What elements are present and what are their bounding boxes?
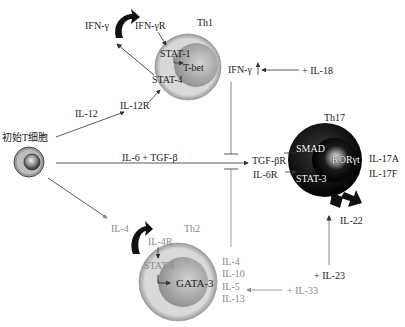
arrow-stat4-ifng xyxy=(117,44,154,75)
th17-cell xyxy=(288,123,362,208)
ifn-gamma-label: IFN-γ xyxy=(85,20,109,31)
naive-t-cell-label: 初始T细胞 xyxy=(2,132,48,143)
arrow-naive-to-th2 xyxy=(48,178,107,218)
stat6-label: STAT-6 xyxy=(144,260,175,271)
th2-output-il5: IL-5 xyxy=(222,281,240,292)
il18-label: + IL-18 xyxy=(302,65,333,76)
il22-label: IL-22 xyxy=(340,215,363,226)
th2-output-il4: IL-4 xyxy=(222,256,240,267)
arrow-ifngr xyxy=(158,32,166,45)
il23-label: + IL-23 xyxy=(314,270,345,281)
il4-input-label: IL-4 xyxy=(111,223,129,234)
th17-title: Th17 xyxy=(324,112,345,123)
th1-title: Th1 xyxy=(197,17,213,28)
il6-tgfb-label: IL-6 + TGF-β xyxy=(122,152,178,163)
il33-label: + IL-33 xyxy=(287,285,318,296)
tgf-beta-r-label: TGF-βR xyxy=(252,155,286,166)
ifn-gamma-up-label: IFN-γ xyxy=(228,64,252,75)
il17a-label: IL-17A xyxy=(369,153,399,164)
il6r-label: IL-6R xyxy=(253,169,277,180)
th2-output-il10: IL-10 xyxy=(222,268,245,279)
stat1-label: STAT-1 xyxy=(160,48,191,59)
ifn-gamma-r-label: IFN-γR xyxy=(135,20,166,31)
il12r-label: IL-12R xyxy=(120,100,149,111)
il17f-label: IL-17F xyxy=(369,168,397,179)
arrow-il12r xyxy=(148,90,160,103)
il4r-label: IL-4R xyxy=(148,236,172,247)
tbet-label: T-bet xyxy=(183,62,204,73)
stat3-label: STAT-3 xyxy=(296,173,327,184)
th2-output-il13: IL-13 xyxy=(222,293,245,304)
stat4-label: STAT-4 xyxy=(152,74,183,85)
th2-title: Th2 xyxy=(184,223,200,234)
ror-gamma-t-label: RORγt xyxy=(332,154,360,165)
naive-t-cell xyxy=(14,147,44,177)
gata3-label: GATA-3 xyxy=(176,278,214,289)
smad-label: SMAD xyxy=(296,143,325,154)
il12-label: IL-12 xyxy=(75,108,98,119)
